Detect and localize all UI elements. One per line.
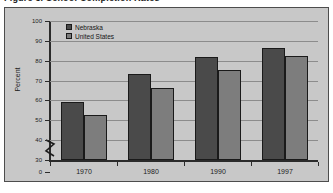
bar-nebraska-1990 <box>195 57 218 160</box>
gridline <box>50 41 318 42</box>
y-tick-label: 30 <box>20 157 42 163</box>
y-tick-label: 0 <box>20 169 42 175</box>
y-tick-mark <box>45 41 50 42</box>
bar-nebraska-1970 <box>61 102 84 160</box>
legend-swatch-nebraska <box>66 24 72 30</box>
gridline <box>50 21 318 22</box>
y-tick-mark <box>45 172 50 173</box>
y-tick-label: 60 <box>20 97 42 103</box>
y-tick-label: 40 <box>20 137 42 143</box>
y-tick-label: 50 <box>20 117 42 123</box>
legend-item-nebraska: Nebraska <box>66 23 114 31</box>
figure-caption: Figure 3. School Completion Rates <box>4 0 160 3</box>
y-tick-mark <box>45 81 50 82</box>
chart-legend: Nebraska United States <box>63 21 118 43</box>
x-tick-mark <box>318 162 319 166</box>
y-tick-label: 90 <box>20 38 42 44</box>
x-tick-mark <box>117 162 118 166</box>
y-tick-label: 80 <box>20 58 42 64</box>
x-tick-label-1990: 1990 <box>188 168 248 175</box>
bar-nebraska-1980 <box>128 74 151 160</box>
figure-container: Figure 3. School Completion Rates Percen… <box>0 0 333 193</box>
legend-item-united-states: United States <box>66 32 114 40</box>
x-tick-mark <box>251 162 252 166</box>
y-tick-label: 70 <box>20 78 42 84</box>
y-tick-label: 100 <box>20 18 42 24</box>
bar-united-states-1990 <box>218 70 241 160</box>
axis-break-icon <box>43 138 57 160</box>
y-tick-mark <box>45 160 50 161</box>
x-tick-label-1997: 1997 <box>255 168 315 175</box>
x-tick-label-1980: 1980 <box>121 168 181 175</box>
bar-nebraska-1997 <box>262 48 285 160</box>
y-tick-mark <box>45 61 50 62</box>
bar-united-states-1980 <box>151 88 174 160</box>
x-tick-mark <box>50 162 51 166</box>
bar-united-states-1997 <box>285 56 308 160</box>
y-tick-mark <box>45 100 50 101</box>
y-tick-mark <box>45 140 50 141</box>
x-tick-mark <box>184 162 185 166</box>
bar-united-states-1970 <box>84 115 107 160</box>
legend-swatch-united-states <box>66 33 72 39</box>
y-tick-mark <box>45 21 50 22</box>
legend-label-nebraska: Nebraska <box>75 24 103 31</box>
legend-label-united-states: United States <box>75 33 114 40</box>
x-tick-label-1970: 1970 <box>54 168 114 175</box>
chart-frame: Percent Nebraska United States 030405060… <box>4 7 329 182</box>
y-tick-mark <box>45 120 50 121</box>
